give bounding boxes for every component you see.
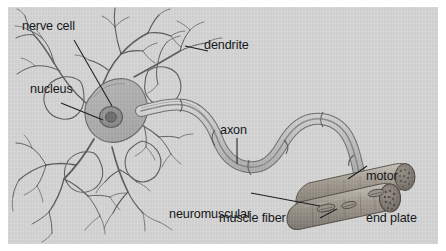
axon: [141, 99, 360, 179]
label-neuromuscular-line1: neuromuscular: [16, 207, 251, 221]
label-motor-end-plate: motor end plate: [366, 141, 417, 244]
label-motor-line2: end plate: [366, 211, 417, 225]
label-motor-line1: motor: [366, 169, 417, 183]
nucleus-structure: [100, 107, 123, 128]
label-nerve-cell: nerve cell: [22, 20, 75, 33]
label-neuromuscular-junction: neuromuscular junction: [16, 179, 251, 244]
figure-container: nerve cell dendrite nucleus axon neuromu…: [0, 0, 446, 251]
diagram-panel: nerve cell dendrite nucleus axon neuromu…: [8, 7, 438, 244]
label-nucleus: nucleus: [30, 83, 73, 96]
label-axon: axon: [220, 124, 247, 137]
label-muscle-fiber: muscle fiber: [219, 212, 286, 225]
label-dendrite: dendrite: [204, 39, 249, 52]
